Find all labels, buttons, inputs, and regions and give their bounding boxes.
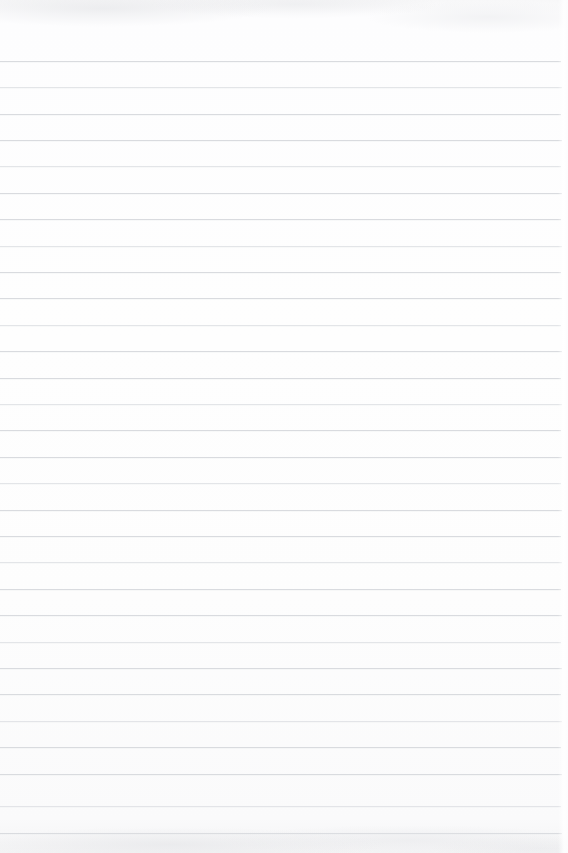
rule-line xyxy=(0,140,562,141)
rule-line xyxy=(0,615,562,616)
rule-line xyxy=(0,457,562,458)
rule-line xyxy=(0,589,561,590)
rule-line xyxy=(0,272,561,273)
rule-line xyxy=(0,747,561,748)
rule-line xyxy=(0,61,561,62)
rule-line xyxy=(0,193,562,194)
rule-line xyxy=(0,536,561,537)
rule-line xyxy=(0,351,562,352)
rule-line xyxy=(0,298,562,299)
rule-line xyxy=(0,833,562,834)
rule-line xyxy=(0,774,562,775)
rule-line xyxy=(0,114,561,115)
rule-line xyxy=(0,246,562,247)
rule-line xyxy=(0,510,562,511)
rule-line xyxy=(0,694,561,695)
rule-line xyxy=(0,806,561,807)
rule-line xyxy=(0,404,562,405)
rule-line xyxy=(0,378,561,379)
rule-line xyxy=(0,642,561,643)
paper-page xyxy=(0,0,568,853)
rule-line xyxy=(0,87,562,88)
rule-line xyxy=(0,483,561,484)
rule-line xyxy=(0,219,561,220)
rule-line xyxy=(0,166,561,167)
rule-line xyxy=(0,325,561,326)
rule-line xyxy=(0,668,562,669)
rule-line xyxy=(0,721,562,722)
rule-line xyxy=(0,562,562,563)
rule-line xyxy=(0,430,561,431)
ruled-lines-layer xyxy=(0,0,568,853)
